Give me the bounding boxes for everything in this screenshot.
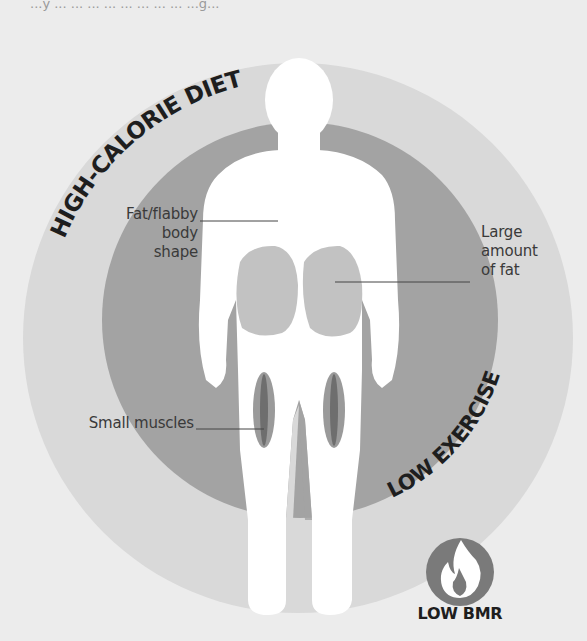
callout-fat: Large amount of fat	[481, 223, 581, 280]
fat-blob-right	[303, 246, 362, 337]
muscle-right-inner	[330, 374, 338, 446]
callout-fat-line2: amount	[481, 242, 581, 261]
callout-body-shape: Fat/flabby body shape	[116, 205, 198, 262]
callout-body-shape-line2: body shape	[116, 224, 198, 262]
fat-blob-left	[236, 246, 298, 336]
callout-fat-line3: of fat	[481, 261, 581, 280]
muscle-left-inner	[260, 374, 268, 446]
callout-fat-line1: Large	[481, 223, 581, 242]
diagram-graphic: ...y ... ... ... ... ... ... ... ... ...…	[0, 0, 587, 641]
low-bmr-label: LOW BMR	[412, 604, 508, 623]
callout-muscles: Small muscles	[60, 414, 194, 433]
obesity-factors-diagram: ...y ... ... ... ... ... ... ... ... ...…	[0, 0, 587, 641]
callout-muscles-text: Small muscles	[60, 414, 194, 433]
callout-body-shape-line1: Fat/flabby	[116, 205, 198, 224]
top-caption: ...y ... ... ... ... ... ... ... ... ...…	[30, 0, 220, 11]
